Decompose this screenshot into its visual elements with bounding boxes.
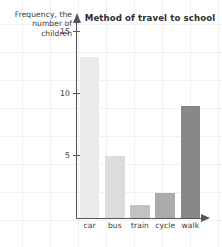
x-tick-label-train: train xyxy=(127,221,152,230)
bar-chart: Frequency, the number of children Method… xyxy=(0,0,222,247)
bar-car xyxy=(80,57,100,218)
y-tick-label-10: 10 xyxy=(48,89,70,98)
y-tick-label-5: 5 xyxy=(48,151,70,160)
y-tick-label-15: 15 xyxy=(48,27,70,36)
x-tick-label-cycle: cycle xyxy=(153,221,178,230)
bar-train xyxy=(130,205,150,217)
bar-bus xyxy=(105,156,125,218)
bar-walk xyxy=(181,106,201,217)
x-axis-line xyxy=(76,218,203,219)
plot-area xyxy=(77,22,203,218)
bar-cycle xyxy=(155,193,175,218)
x-tick-label-bus: bus xyxy=(102,221,127,230)
x-tick-label-car: car xyxy=(77,221,102,230)
x-tick-label-walk: walk xyxy=(178,221,203,230)
y-axis-label-line-1: Frequency, the xyxy=(2,10,72,19)
